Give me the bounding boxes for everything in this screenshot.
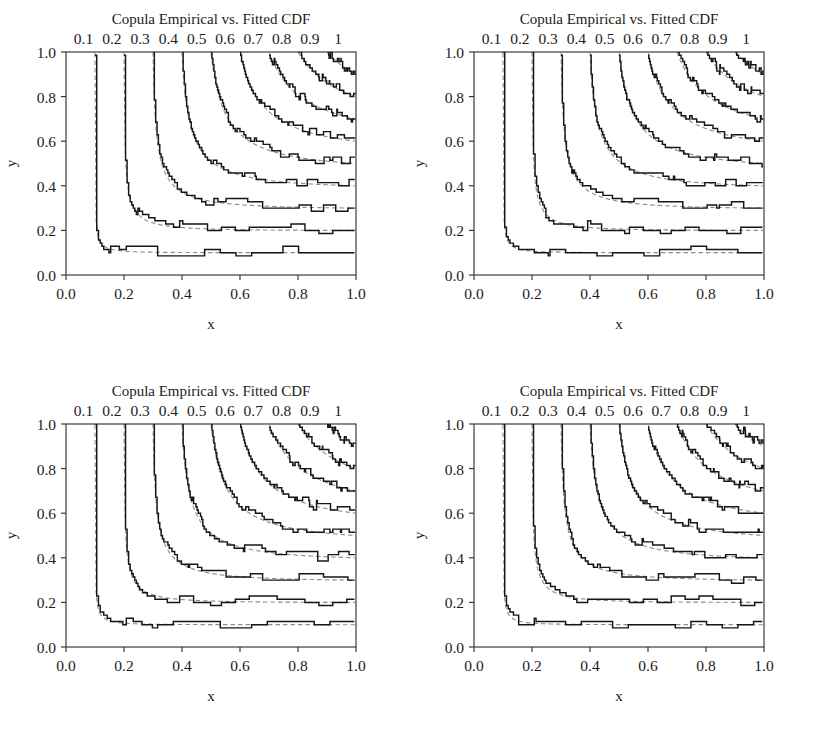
contour-level-label: 0.8 [272,402,292,419]
empirical-cdf-contour [298,52,356,97]
contour-level-label: 0.4 [567,30,587,47]
contour-level-label: 0.3 [538,402,558,419]
y-tick-label: 0.6 [37,505,57,522]
y-tick-label: 0.6 [37,133,57,150]
y-tick-label: 0.4 [37,178,57,195]
fitted-cdf-contour [182,52,355,186]
x-axis-title: x [207,688,215,704]
x-tick-label: 0.4 [580,657,600,674]
contour-level-label: 0.6 [215,30,235,47]
curves-group [503,424,764,628]
plot-frame [474,424,764,647]
fitted-cdf-contour [503,425,763,625]
empirical-cdf-contour [619,424,763,532]
contour-level-label: 0.4 [159,30,179,47]
empirical-cdf-contour [619,55,763,167]
x-tick-label: 0.6 [638,657,658,674]
y-tick-label: 0.6 [445,133,465,150]
contour-level-label: 0.7 [244,402,264,419]
x-tick-label: 0.4 [172,285,192,302]
contour-level-label: 0.9 [708,30,728,47]
contour-level-label: 1 [742,402,750,419]
empirical-cdf-contour [706,424,764,469]
contour-level-label: 0.3 [538,30,558,47]
x-tick-label: 0.8 [696,657,716,674]
x-tick-label: 1.0 [754,285,774,302]
y-axis-title: y [3,531,19,539]
x-tick-label: 0.0 [56,285,76,302]
empirical-cdf-contour [327,424,356,446]
fitted-cdf-contour [269,424,356,491]
fitted-cdf-contour [298,52,356,97]
panel-bottom-right: Copula Empirical vs. Fitted CDF0.10.20.3… [408,372,816,744]
empirical-cdf-contour [182,52,355,186]
panel-title: Copula Empirical vs. Fitted CDF [112,383,311,399]
contour-level-label: 0.7 [652,30,672,47]
x-tick-label: 0.6 [638,285,658,302]
y-tick-label: 0.0 [37,267,57,284]
contour-level-label: 0.8 [272,30,292,47]
x-tick-label: 0.6 [230,285,250,302]
empirical-cdf-contour [327,52,356,74]
y-axis-title: y [411,531,427,539]
y-tick-label: 0.2 [37,594,56,611]
x-tick-label: 0.8 [288,285,308,302]
panel-title: Copula Empirical vs. Fitted CDF [112,11,311,27]
x-tick-label: 1.0 [754,657,774,674]
contour-level-label: 0.4 [159,402,179,419]
contour-level-label: 0.9 [300,30,320,47]
plot-frame [474,52,764,275]
x-tick-label: 1.0 [346,657,366,674]
x-tick-label: 0.0 [464,285,484,302]
x-tick-label: 1.0 [346,285,366,302]
empirical-cdf-contour [240,424,355,510]
contour-level-label: 0.3 [130,30,150,47]
empirical-cdf-contour [735,424,764,443]
y-tick-label: 1.0 [37,416,57,433]
curves-group [95,52,356,256]
fitted-cdf-contour [182,424,355,558]
contour-level-label: 0.9 [300,402,320,419]
contour-level-label: 0.1 [74,402,93,419]
x-tick-label: 0.2 [522,657,541,674]
fitted-cdf-contour [590,52,763,186]
contour-level-label: 0.3 [130,402,150,419]
panel-bottom-left: Copula Empirical vs. Fitted CDF0.10.20.3… [0,372,408,744]
fitted-cdf-contour [503,53,763,253]
empirical-cdf-contour [211,424,355,532]
y-tick-label: 0.8 [37,89,57,106]
contour-level-label: 0.7 [652,402,672,419]
y-tick-label: 0.4 [37,550,57,567]
empirical-cdf-contour [735,52,764,74]
contour-level-label: 1 [742,30,750,47]
fitted-cdf-contour [95,53,355,253]
contour-level-label: 0.2 [510,30,529,47]
contour-level-label: 0.5 [187,402,207,419]
y-tick-label: 0.4 [445,550,465,567]
y-tick-label: 0.0 [37,639,57,656]
empirical-cdf-contour [298,424,356,469]
contour-level-label: 1 [334,30,342,47]
y-tick-label: 0.8 [445,89,465,106]
contour-level-label: 0.9 [708,402,728,419]
contour-level-label: 0.6 [623,30,643,47]
curves-group [95,424,356,628]
y-tick-label: 0.2 [445,594,464,611]
contour-level-label: 0.6 [623,402,643,419]
y-tick-label: 0.2 [445,222,464,239]
y-tick-label: 0.0 [445,267,465,284]
panel-top-right: Copula Empirical vs. Fitted CDF0.10.20.3… [408,0,816,372]
empirical-cdf-contour [95,55,354,256]
empirical-cdf-contour [211,52,355,164]
fitted-cdf-contour [95,425,355,625]
fitted-cdf-contour [619,52,763,163]
x-tick-label: 0.0 [464,657,484,674]
empirical-cdf-contour [503,424,762,628]
x-tick-label: 0.4 [172,657,192,674]
x-tick-label: 0.2 [114,657,133,674]
y-tick-label: 1.0 [445,416,465,433]
empirical-cdf-contour [590,55,763,186]
x-axis-title: x [615,316,623,332]
fitted-cdf-contour [619,424,763,535]
y-tick-label: 0.2 [37,222,56,239]
